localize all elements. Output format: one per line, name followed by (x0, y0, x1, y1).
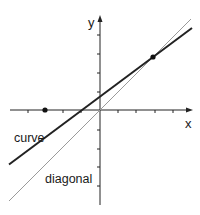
x-axis-label: x (185, 116, 192, 131)
x-axis-arrow-icon (186, 108, 193, 113)
x-axis-point (42, 107, 47, 112)
diagram-canvas: y x curve diagonal (0, 0, 200, 215)
curve-label: curve (14, 131, 45, 145)
y-axis-label: y (88, 15, 95, 30)
y-axis-arrow-icon (98, 15, 103, 22)
intersection-point (150, 54, 155, 59)
diagonal-label: diagonal (45, 172, 92, 186)
